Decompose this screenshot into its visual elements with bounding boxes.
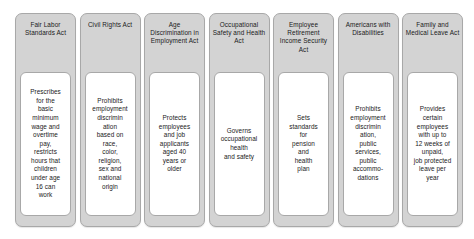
law-card-body: Prohibits employment discrimin ation bas… bbox=[85, 72, 136, 216]
law-card-family-and-medical-leave-act: Family and Medical Leave Act Provides ce… bbox=[402, 13, 463, 227]
law-card-americans-with-disabilities: Americans with Disabilities Prohibits em… bbox=[338, 13, 399, 227]
law-card-description: Protects employees and job applicants ag… bbox=[159, 114, 190, 174]
law-card-body: Prescribes for the basic minimum wage an… bbox=[20, 72, 71, 216]
employment-laws-diagram: Fair Labor Standards Act Prescribes for … bbox=[0, 0, 474, 239]
law-card-title: Employee Retirement Income Security Act bbox=[274, 14, 333, 54]
law-card-civil-rights-act: Civil Rights Act Prohibits employment di… bbox=[80, 13, 141, 227]
law-card-description: Prescribes for the basic minimum wage an… bbox=[30, 88, 61, 200]
law-card-body: Sets standards for pension and health pl… bbox=[278, 72, 329, 216]
law-card-occupational-safety-and-health-act: Occupational Safety and Health Act Gover… bbox=[209, 13, 270, 227]
law-card-title: Civil Rights Act bbox=[81, 14, 140, 29]
law-card-age-discrimination-in-employment-act: Age Discrimination in Employment Act Pro… bbox=[144, 13, 205, 227]
law-card-description: Sets standards for pension and health pl… bbox=[289, 114, 318, 174]
law-card-description: Prohibits employment discrimin ation, pu… bbox=[350, 105, 385, 182]
law-card-title: Family and Medical Leave Act bbox=[403, 14, 462, 37]
law-card-description: Prohibits employment discrimin ation bas… bbox=[92, 97, 127, 192]
law-card-title: Occupational Safety and Health Act bbox=[210, 14, 269, 46]
law-card-body: Provides certain employees with up to 12… bbox=[407, 72, 458, 216]
law-card-body: Protects employees and job applicants ag… bbox=[149, 72, 200, 216]
law-card-employee-retirement-income-security-act: Employee Retirement Income Security Act … bbox=[273, 13, 334, 227]
law-card-body: Governs occupational health and safety bbox=[214, 72, 265, 216]
law-card-fair-labor-standards-act: Fair Labor Standards Act Prescribes for … bbox=[15, 13, 76, 227]
law-card-description: Governs occupational health and safety bbox=[221, 127, 258, 161]
law-card-title: Americans with Disabilities bbox=[339, 14, 398, 37]
law-card-description: Provides certain employees with up to 12… bbox=[414, 105, 452, 182]
law-card-title: Age Discrimination in Employment Act bbox=[145, 14, 204, 46]
law-card-title: Fair Labor Standards Act bbox=[16, 14, 75, 37]
law-card-body: Prohibits employment discrimin ation, pu… bbox=[343, 72, 394, 216]
law-cards-row: Fair Labor Standards Act Prescribes for … bbox=[15, 13, 463, 227]
